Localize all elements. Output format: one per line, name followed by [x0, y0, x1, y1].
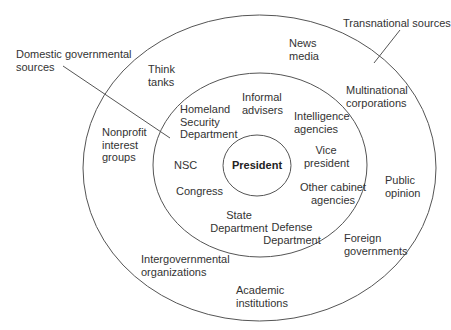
informal-advisers-label: Informal advisers — [242, 91, 283, 116]
academic-institutions-label: Academic institutions — [236, 284, 288, 309]
foreign-governments-label: Foreign governments — [344, 232, 408, 257]
president-label: President — [230, 159, 284, 172]
nonprofit-label: Nonprofit interest groups — [102, 126, 147, 164]
homeland-security-label: Homeland Security Department — [180, 103, 237, 141]
domestic-sources-label: Domestic governmental sources — [16, 48, 132, 73]
intergovernmental-label: Intergovernmental organizations — [141, 253, 230, 278]
news-media-label: News media — [289, 37, 319, 62]
intelligence-agencies-label: Intelligence agencies — [294, 110, 350, 135]
congress-label: Congress — [176, 185, 223, 198]
think-tanks-label: Think tanks — [148, 63, 175, 88]
nsc-label: NSC — [174, 159, 197, 172]
transnational-callout-line — [374, 30, 400, 63]
transnational-sources-label: Transnational sources — [343, 17, 451, 30]
other-cabinet-label: Other cabinet agencies — [296, 181, 370, 206]
public-opinion-label: Public opinion — [385, 174, 420, 199]
multinational-label: Multinational corporations — [346, 84, 408, 109]
state-department-label: State Department — [209, 209, 269, 234]
vice-president-label: Vice president — [304, 144, 348, 169]
